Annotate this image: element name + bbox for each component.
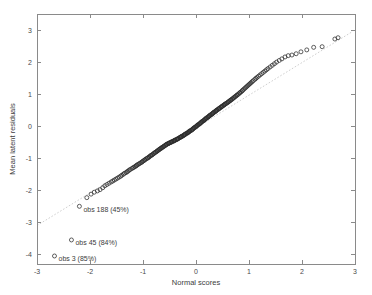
data-point <box>294 52 298 56</box>
data-point <box>290 53 294 57</box>
data-point <box>305 48 309 52</box>
annotation-group: obs 188 (45%)obs 45 (84%)obs 3 (85%) <box>58 206 128 264</box>
axes-group: -3-2-101233210-1-2-3-4 <box>26 14 357 275</box>
plot-canvas: -3-2-101233210-1-2-3-4 obs 188 (45%)obs … <box>0 0 372 295</box>
x-axis-title: Normal scores <box>172 278 221 287</box>
y-tick-label: 2 <box>28 59 32 66</box>
y-tick-label: -3 <box>26 219 32 226</box>
data-point <box>312 45 316 49</box>
data-point <box>85 196 89 200</box>
x-tick-label: 1 <box>247 268 251 275</box>
x-tick-label: -2 <box>87 268 93 275</box>
data-point <box>69 238 73 242</box>
y-tick-label: -4 <box>26 251 32 258</box>
data-point <box>254 76 258 80</box>
y-tick-label: 3 <box>28 27 32 34</box>
x-tick-label: -1 <box>140 268 146 275</box>
outlier-label: obs 188 (45%) <box>83 206 129 214</box>
data-point <box>52 254 56 258</box>
x-tick-label: 2 <box>300 268 304 275</box>
data-point <box>77 204 81 208</box>
y-tick-label: 0 <box>28 123 32 130</box>
x-tick-label: -3 <box>34 268 40 275</box>
y-tick-label: 1 <box>28 91 32 98</box>
outlier-label: obs 45 (84%) <box>75 239 117 247</box>
x-tick-label: 0 <box>194 268 198 275</box>
data-point <box>320 45 324 49</box>
y-tick-label: -2 <box>26 187 32 194</box>
data-point-group <box>52 36 340 258</box>
x-tick-label: 3 <box>353 268 357 275</box>
data-point <box>299 50 303 54</box>
qq-plot-figure: -3-2-101233210-1-2-3-4 obs 188 (45%)obs … <box>0 0 372 295</box>
outlier-label: obs 3 (85%) <box>58 255 96 263</box>
y-axis-title: Mean latent residuals <box>8 103 17 175</box>
y-tick-label: -1 <box>26 155 32 162</box>
